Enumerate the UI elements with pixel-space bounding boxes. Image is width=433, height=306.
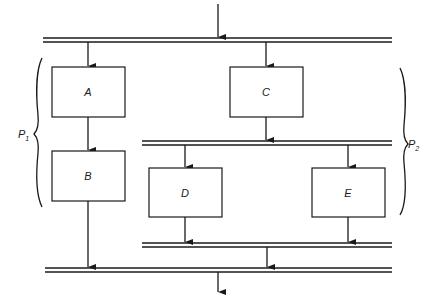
bus-join-main <box>45 268 392 272</box>
process-box-d: D <box>149 168 222 217</box>
diagram-canvas: A B C D E P1 P2 <box>0 0 433 306</box>
group-label-p1: P1 <box>18 128 29 142</box>
process-box-b: B <box>52 151 125 201</box>
process-box-a: A <box>52 67 125 117</box>
group-label-p2: P2 <box>408 138 419 152</box>
bus-join-p2 <box>142 243 392 247</box>
brace-p1 <box>34 58 42 207</box>
brace-p2 <box>400 68 408 215</box>
process-label-d: D <box>181 187 189 199</box>
process-label-e: E <box>344 187 352 199</box>
process-box-e: E <box>312 168 385 217</box>
process-box-c: C <box>230 67 303 117</box>
bus-fork-p2 <box>142 141 392 145</box>
bus-fork-main <box>43 38 392 42</box>
process-label-c: C <box>262 86 270 98</box>
process-label-b: B <box>84 170 91 182</box>
process-label-a: A <box>83 86 91 98</box>
